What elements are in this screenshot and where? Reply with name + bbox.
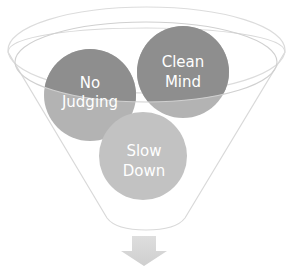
label-no-judging-2: Judging: [61, 93, 118, 111]
funnel-diagram: No Judging Clean Mind Slow Down: [0, 0, 293, 278]
label-slow-down-1: Slow: [126, 142, 161, 160]
label-slow-down-2: Down: [123, 162, 166, 180]
down-arrow-icon: [121, 236, 167, 266]
label-no-judging-1: No: [80, 74, 100, 92]
label-clean-mind-2: Mind: [165, 73, 201, 91]
label-clean-mind-1: Clean: [162, 53, 205, 71]
